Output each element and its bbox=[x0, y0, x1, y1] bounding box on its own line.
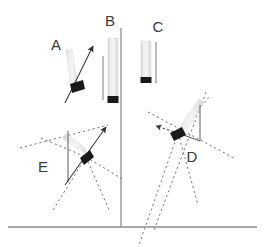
panel-d-dotted-line-1 bbox=[154, 92, 206, 230]
panel-d-dotted-line-5 bbox=[139, 133, 178, 245]
panel-c-marker bbox=[141, 77, 152, 83]
panel-b-bar bbox=[108, 38, 118, 96]
panel-c-bar bbox=[141, 41, 151, 77]
panel-e-dotted-line-4 bbox=[86, 157, 110, 212]
panel-a-group: A bbox=[51, 36, 93, 103]
figure-canvas: A B C bbox=[0, 0, 264, 247]
panel-d-label: D bbox=[187, 148, 198, 165]
panel-e-dotted-line-5 bbox=[53, 157, 86, 210]
panel-b-group: B bbox=[103, 12, 119, 103]
diagram-svg: A B C bbox=[0, 0, 264, 247]
panel-c-label: C bbox=[153, 18, 164, 35]
panel-c-group: C bbox=[141, 18, 164, 83]
panel-d-group: D bbox=[139, 92, 234, 245]
panel-b-marker bbox=[108, 96, 119, 103]
panel-d-dotted-line-3 bbox=[178, 133, 198, 205]
panel-e-dotted-line-3 bbox=[86, 157, 124, 180]
panel-e-bar bbox=[63, 133, 88, 155]
panel-b-label: B bbox=[105, 12, 115, 29]
panel-e-group: E bbox=[20, 125, 124, 212]
panel-e-label: E bbox=[38, 158, 48, 175]
panel-a-label: A bbox=[51, 36, 61, 53]
